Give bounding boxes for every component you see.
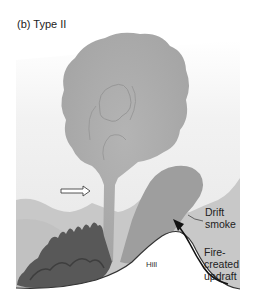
fire-updraft-label-line2: created — [204, 258, 239, 270]
drift-smoke-label-line2: smoke — [205, 218, 236, 230]
figure-title: (b) Type II — [17, 18, 66, 30]
drift-smoke-label-line1: Drift — [205, 206, 236, 218]
fire-updraft-label-line3: updraft — [204, 270, 239, 282]
fire-updraft-label: Fire- created updraft — [204, 246, 239, 282]
fire-updraft-label-line1: Fire- — [204, 246, 239, 258]
hill-label: Hill — [146, 259, 157, 271]
drift-smoke-label: Drift smoke — [205, 206, 236, 230]
type-ii-fire-diagram: (b) Type II Drift smoke Fire- created up… — [0, 0, 257, 308]
